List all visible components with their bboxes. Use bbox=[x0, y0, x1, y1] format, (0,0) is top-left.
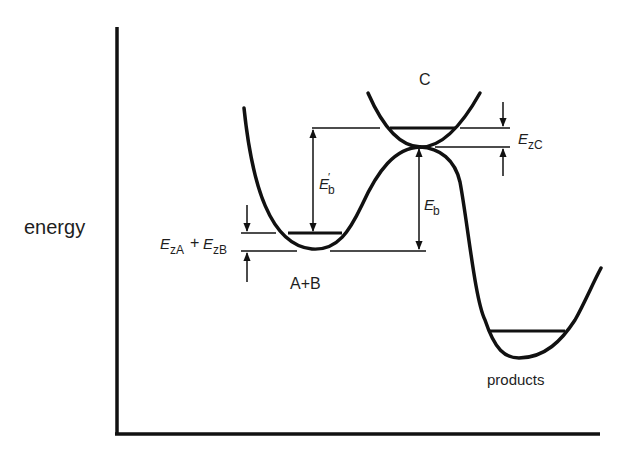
svg-text:′: ′ bbox=[328, 171, 330, 183]
svg-text:b: b bbox=[433, 204, 440, 218]
svg-text:+: + bbox=[190, 234, 199, 251]
label-reactant-zpe: E zA + E zB bbox=[160, 234, 227, 257]
label-products: products bbox=[487, 371, 545, 388]
label-reactants: A+B bbox=[290, 275, 321, 292]
label-effective-barrier: E ′ b bbox=[319, 171, 335, 197]
svg-text:zB: zB bbox=[213, 243, 227, 257]
svg-text:b: b bbox=[328, 183, 335, 197]
label-classical-barrier: E b bbox=[424, 196, 440, 218]
label-complex-zpe: E zC bbox=[518, 130, 543, 152]
product-curve bbox=[420, 147, 601, 358]
svg-text:zC: zC bbox=[528, 138, 543, 152]
svg-text:zA: zA bbox=[170, 243, 184, 257]
label-complex: C bbox=[419, 71, 431, 88]
y-axis-label: energy bbox=[24, 216, 85, 238]
complex-well-curve bbox=[368, 93, 480, 147]
energy-diagram: energy C A+B products E ′ b E b E zC E z… bbox=[0, 0, 628, 465]
